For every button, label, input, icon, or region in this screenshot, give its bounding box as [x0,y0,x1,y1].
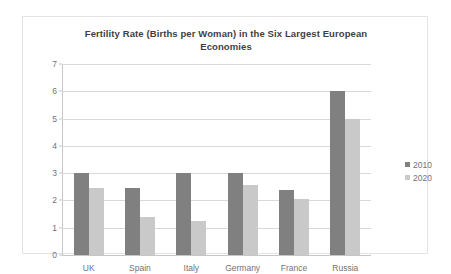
y-axis-tick-label: 1 [52,223,57,233]
y-axis-tick [59,91,62,92]
y-axis-tick [59,255,62,256]
bar-italy-2020[interactable] [191,221,206,255]
bar-group: Italy [166,64,217,255]
legend-item-2020[interactable]: 2020 [405,171,432,184]
y-axis-tick-label: 4 [52,141,57,151]
y-axis-tick [59,118,62,119]
x-axis-tick-label: UK [63,263,114,273]
legend-swatch-icon [405,162,410,167]
chart-container: Fertility Rate (Births per Woman) in the… [22,16,428,254]
bar-france-2010[interactable] [279,190,294,255]
bar-russia-2010[interactable] [330,91,345,255]
legend-label: 2020 [413,173,432,183]
legend-swatch-icon [405,175,410,180]
bar-france-2020[interactable] [294,199,309,255]
legend-label: 2010 [413,160,432,170]
y-axis-tick-label: 6 [52,86,57,96]
bar-group: Spain [114,64,165,255]
y-axis-tick [59,145,62,146]
y-axis-tick [59,173,62,174]
bar-uk-2020[interactable] [89,188,104,255]
bar-russia-2020[interactable] [345,119,360,255]
y-axis-tick-label: 2 [52,195,57,205]
bar-italy-2010[interactable] [176,173,191,255]
bar-uk-2010[interactable] [74,173,89,255]
bar-group: France [268,64,319,255]
x-axis-tick-label: Italy [166,263,217,273]
bar-group: UK [63,64,114,255]
y-axis-tick [59,227,62,228]
chart-title-line-2: Economies [200,41,252,52]
x-axis-tick-label: Russia [320,263,371,273]
y-axis-tick [59,64,62,65]
y-axis-tick-label: 5 [52,114,57,124]
bars-layer: UKSpainItalyGermanyFranceRussia [63,64,371,255]
y-axis-tick-label: 3 [52,168,57,178]
chart-title-line-1: Fertility Rate (Births per Woman) in the… [85,28,368,39]
bar-germany-2020[interactable] [243,185,258,255]
bar-group: Germany [217,64,268,255]
bar-spain-2020[interactable] [140,217,155,255]
chart-legend: 20102020 [405,158,432,184]
plot-area: 01234567 UKSpainItalyGermanyFranceRussia [62,64,371,255]
chart-title: Fertility Rate (Births per Woman) in the… [61,27,391,53]
gridline [62,255,371,256]
legend-item-2010[interactable]: 2010 [405,158,432,171]
y-axis-tick-label: 7 [52,59,57,69]
bar-germany-2010[interactable] [228,173,243,255]
x-axis-tick-label: Spain [114,263,165,273]
bar-spain-2010[interactable] [125,188,140,255]
bar-group: Russia [320,64,371,255]
y-axis-tick-label: 0 [52,250,57,260]
x-axis-tick-label: France [268,263,319,273]
x-axis-tick-label: Germany [217,263,268,273]
y-axis-tick [59,200,62,201]
